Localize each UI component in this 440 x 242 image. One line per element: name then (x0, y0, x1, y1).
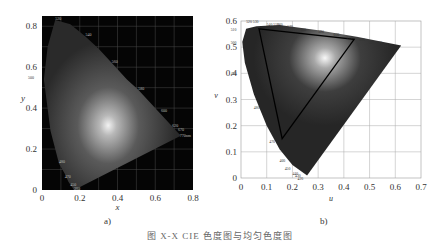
svg-text:770nm: 770nm (180, 133, 192, 138)
svg-text:0.4: 0.4 (338, 182, 350, 192)
svg-text:0: 0 (33, 185, 38, 195)
svg-text:0.6: 0.6 (226, 16, 238, 26)
svg-text:0.1: 0.1 (226, 147, 237, 157)
svg-text:630 640: 630 640 (370, 41, 382, 45)
svg-text:0: 0 (233, 173, 238, 183)
svg-text:620: 620 (359, 38, 365, 42)
svg-text:0.2: 0.2 (226, 121, 237, 131)
svg-text:500: 500 (28, 75, 34, 80)
svg-text:650: 650 (382, 44, 388, 48)
svg-text:490: 490 (231, 72, 237, 76)
figure-caption: 图 X-X CIE 色度图与均匀色度图 (0, 229, 440, 242)
panel-a-label: a) (104, 216, 111, 226)
svg-text:460: 460 (280, 159, 286, 163)
svg-text:380: 380 (74, 186, 80, 191)
svg-text:600: 600 (161, 108, 167, 113)
svg-text:0.7: 0.7 (415, 182, 427, 192)
svg-text:520 530: 520 530 (246, 20, 258, 24)
svg-text:580: 580 (300, 28, 306, 32)
svg-text:500: 500 (231, 41, 237, 45)
svg-text:x: x (115, 202, 120, 212)
svg-text:0.8: 0.8 (187, 193, 199, 203)
svg-text:0.2: 0.2 (287, 182, 298, 192)
svg-text:0.6: 0.6 (390, 182, 402, 192)
svg-text:670: 670 (178, 127, 184, 132)
chart-svg: 00.20.40.60.800.20.40.60.8xy520540500560… (0, 0, 440, 242)
svg-text:0.2: 0.2 (74, 193, 85, 203)
svg-text:540: 540 (85, 32, 91, 37)
svg-text:0: 0 (40, 193, 45, 203)
svg-text:480: 480 (59, 159, 65, 164)
svg-text:0.5: 0.5 (364, 182, 376, 192)
svg-text:v: v (214, 91, 218, 100)
svg-text:y: y (20, 93, 25, 103)
svg-text:0.4: 0.4 (26, 103, 38, 113)
svg-text:u: u (329, 194, 333, 203)
svg-text:0.2: 0.2 (26, 144, 37, 154)
svg-text:0.1: 0.1 (261, 182, 272, 192)
panel-b-label: b) (320, 216, 328, 226)
svg-text:420: 420 (298, 177, 304, 181)
svg-text:610: 610 (346, 36, 352, 40)
svg-text:450: 450 (285, 167, 291, 171)
svg-text:470: 470 (65, 174, 71, 179)
panel-a-chart: 00.20.40.60.800.20.40.60.8xy520540500560… (20, 16, 199, 212)
svg-text:480: 480 (254, 106, 260, 110)
svg-text:580: 580 (138, 86, 144, 91)
figure: 00.20.40.60.800.20.40.60.8xy520540500560… (0, 0, 440, 242)
svg-text:0.8: 0.8 (26, 21, 38, 31)
svg-text:560: 560 (112, 59, 118, 64)
svg-text:0.3: 0.3 (226, 95, 238, 105)
svg-text:510: 510 (231, 28, 237, 32)
svg-text:600: 600 (334, 33, 340, 37)
svg-text:0.6: 0.6 (26, 62, 38, 72)
svg-text:0.6: 0.6 (150, 193, 162, 203)
svg-text:0.3: 0.3 (313, 182, 325, 192)
svg-text:520: 520 (55, 16, 61, 21)
svg-text:560: 560 (277, 23, 283, 27)
svg-text:570: 570 (287, 25, 293, 29)
svg-text:0: 0 (239, 182, 244, 192)
svg-text:470: 470 (269, 140, 275, 144)
svg-text:590: 590 (318, 30, 324, 34)
panel-b-chart: 00.10.20.30.40.50.60.700.10.20.30.40.50.… (214, 16, 427, 203)
